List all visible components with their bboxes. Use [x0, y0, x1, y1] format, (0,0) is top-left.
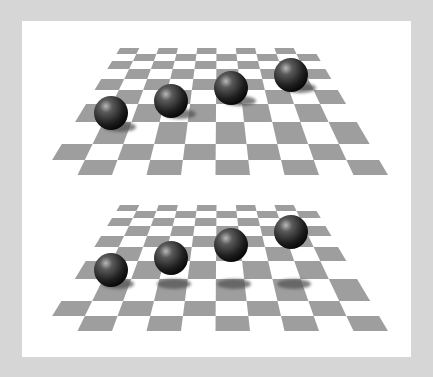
floor-tile [95, 79, 125, 90]
floor-tile [274, 205, 296, 211]
sphere [94, 96, 128, 130]
floor-tile [151, 61, 175, 69]
floor-tile [156, 205, 178, 211]
floor-tile [183, 144, 216, 160]
floor-tile [216, 160, 251, 175]
floor-tile [294, 104, 328, 122]
floor-tile [196, 205, 216, 211]
sphere-shadow [157, 279, 191, 289]
floor-tile [118, 144, 155, 160]
floor-tile [281, 316, 319, 331]
floor-tile [265, 247, 294, 261]
floor-tile [151, 218, 175, 226]
floor-tile [329, 279, 370, 301]
floor-tile [308, 301, 346, 316]
sphere-shadow [217, 279, 251, 289]
floor-tile [297, 211, 321, 218]
floor-tile [78, 316, 118, 331]
floor-tile [274, 48, 296, 54]
floor-tile [247, 301, 281, 316]
floor-tile [195, 218, 217, 226]
floor-tile [294, 261, 329, 279]
upper-scene [52, 48, 388, 175]
floor-tile [124, 69, 151, 79]
sphere-shadow [277, 279, 311, 289]
floor-tile [183, 301, 216, 316]
floor-tile [107, 218, 133, 226]
floor-tile [116, 48, 139, 54]
sphere [214, 228, 248, 262]
floor-tile [216, 122, 247, 144]
floor-tile [107, 61, 133, 69]
floor-tile [242, 261, 272, 279]
floor-tile [256, 54, 278, 61]
floor-tile [94, 236, 124, 247]
floor-tile [247, 144, 281, 160]
floor-tile [156, 48, 178, 54]
floor-tile [188, 261, 216, 279]
floor-tile [281, 160, 319, 175]
sphere [214, 71, 248, 105]
checkerboard-illustration [0, 0, 433, 377]
floor-tile [175, 211, 197, 218]
floor-tile [314, 247, 347, 261]
floor-tile [78, 160, 118, 175]
floor-tile [118, 301, 154, 316]
floor-tile [170, 69, 194, 79]
floor-tile [272, 122, 308, 144]
floor-tile [192, 79, 216, 90]
floor-tile [346, 160, 388, 175]
floor-tile [329, 122, 370, 144]
floor-tile [52, 301, 92, 316]
floor-tile [147, 160, 183, 175]
floor-tile [237, 218, 260, 226]
floor-tile [192, 236, 216, 247]
floor-tile [242, 104, 272, 122]
lower-scene [52, 205, 388, 331]
floor-tile [196, 48, 216, 54]
floor-tile [308, 144, 346, 160]
sphere [154, 84, 188, 118]
floor-tile [124, 226, 151, 236]
floor-tile [154, 122, 188, 144]
floor-tile [147, 316, 183, 331]
floor-tile [257, 211, 280, 218]
floor-tile [216, 54, 237, 61]
floor-tile [170, 226, 194, 236]
floor-tile [346, 316, 388, 331]
sphere [94, 253, 128, 287]
floor-tile [133, 211, 156, 218]
floor-tile [116, 205, 139, 211]
floor-tile [216, 211, 237, 218]
sphere [274, 58, 308, 92]
floor-tile [237, 61, 260, 69]
floor-tile [175, 54, 197, 61]
sphere [154, 241, 188, 275]
floor-tile [133, 54, 156, 61]
floor-tile [313, 90, 346, 104]
floor-tile [265, 90, 294, 104]
floor-tile [236, 48, 257, 54]
floor-tile [297, 54, 321, 61]
floor-tile [236, 205, 257, 211]
floor-tile [216, 316, 251, 331]
floor-tile [52, 144, 92, 160]
sphere [274, 215, 308, 249]
floor-tile [195, 61, 217, 69]
